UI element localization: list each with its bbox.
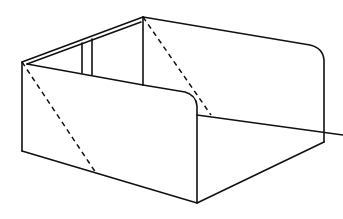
right-wall bbox=[143, 17, 324, 142]
fold-lines bbox=[22, 17, 211, 173]
box-diagram bbox=[0, 0, 343, 219]
inner-panel bbox=[82, 39, 92, 75]
left-wall bbox=[22, 62, 197, 203]
box-drawing-svg bbox=[0, 0, 343, 219]
front-panel bbox=[143, 85, 343, 203]
